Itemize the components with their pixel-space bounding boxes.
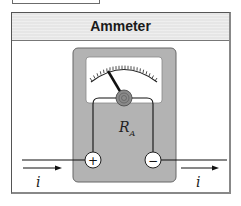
- needle-pivot: [116, 90, 132, 106]
- current-label-out: i: [196, 174, 200, 190]
- plus-symbol: +: [88, 154, 98, 168]
- minus-symbol: −: [148, 154, 158, 168]
- internal-resistance-label: RA: [119, 119, 135, 138]
- current-label-in: i: [36, 174, 40, 190]
